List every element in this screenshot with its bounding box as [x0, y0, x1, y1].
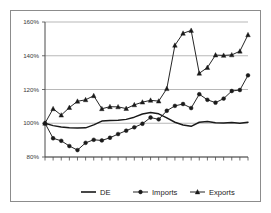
line-chart: 80%100%120%140%160% DEImportsExports: [0, 0, 271, 213]
data-point-marker: [132, 125, 136, 129]
data-point-marker: [76, 148, 80, 152]
legend-item: Imports: [133, 188, 178, 197]
data-point-marker: [181, 102, 185, 106]
chart-legend: DEImportsExports: [81, 188, 235, 197]
y-axis-tick-label: 140%: [23, 52, 39, 59]
data-point-marker: [67, 144, 71, 148]
data-point-marker: [92, 138, 96, 142]
data-point-marker: [149, 116, 153, 120]
legend-label: DE: [100, 188, 111, 197]
y-gridlines: [45, 22, 248, 157]
data-point-marker: [91, 93, 96, 97]
data-point-marker: [108, 136, 112, 140]
data-point-marker: [124, 129, 128, 133]
data-point-marker: [222, 97, 226, 101]
legend-label: Imports: [152, 188, 178, 197]
legend-marker-swatch: [139, 190, 143, 194]
x-axis-tick-marks: [45, 157, 248, 161]
data-point-marker: [230, 89, 234, 93]
legend-item: DE: [81, 188, 111, 197]
data-point-marker: [51, 106, 56, 110]
data-point-marker: [246, 73, 250, 77]
data-point-marker: [116, 132, 120, 136]
data-point-marker: [238, 49, 243, 53]
data-point-marker: [141, 122, 145, 126]
data-point-marker: [197, 92, 201, 96]
data-point-marker: [59, 139, 63, 143]
chart-figure: 80%100%120%140%160% DEImportsExports: [0, 0, 271, 213]
data-point-marker: [165, 109, 169, 113]
data-point-marker: [246, 32, 251, 36]
y-axis-tick-labels: 80%100%120%140%160%: [23, 18, 39, 160]
series-line: [45, 30, 248, 123]
data-point-marker: [189, 28, 194, 32]
data-point-marker: [173, 104, 177, 108]
data-point-marker: [214, 101, 218, 105]
legend-label: Exports: [209, 188, 235, 197]
y-axis-tick-label: 120%: [23, 86, 39, 93]
data-point-marker: [189, 106, 193, 110]
legend-item: Exports: [190, 188, 235, 197]
data-point-marker: [157, 117, 161, 121]
y-axis-tick-label: 100%: [23, 119, 39, 126]
data-point-marker: [197, 71, 202, 75]
series-exports: [43, 28, 251, 125]
data-point-marker: [84, 141, 88, 145]
data-point-marker: [100, 139, 104, 143]
data-point-marker: [51, 136, 55, 140]
y-axis-tick-label: 80%: [27, 153, 40, 160]
y-axis-tick-label: 160%: [23, 18, 39, 25]
data-point-marker: [206, 98, 210, 102]
data-point-marker: [165, 86, 170, 90]
data-point-marker: [238, 88, 242, 92]
